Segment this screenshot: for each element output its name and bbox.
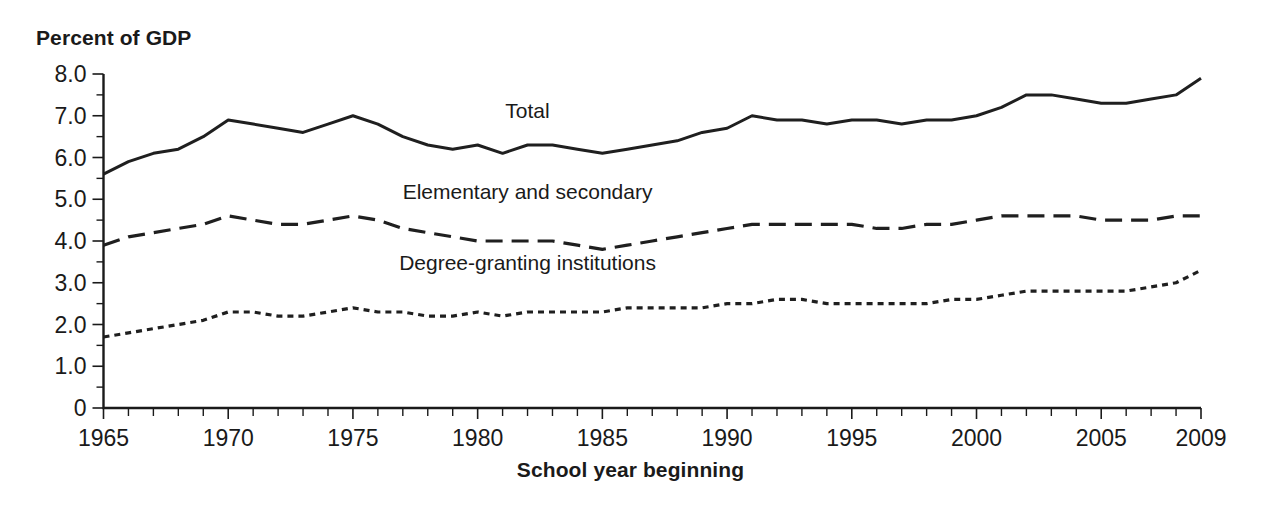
x-tick-label: 1980 — [452, 425, 503, 450]
x-tick-label: 2009 — [1175, 425, 1226, 450]
series-label-2: Degree-granting institutions — [399, 251, 656, 274]
y-tick-label: 2.0 — [55, 312, 87, 338]
y-axis-title: Percent of GDP — [36, 26, 191, 50]
x-tick-label: 1995 — [826, 425, 877, 450]
series-label-0: Total — [505, 99, 549, 122]
y-tick-label: 4.0 — [55, 228, 87, 254]
x-tick-label: 1975 — [327, 425, 378, 450]
y-tick-label: 8.0 — [55, 61, 87, 87]
y-tick-label: 6.0 — [55, 145, 87, 171]
data-series-lines — [104, 78, 1202, 337]
y-tick-label: 1.0 — [55, 353, 87, 379]
x-tick-label: 1965 — [78, 425, 129, 450]
y-tick-label: 5.0 — [55, 186, 87, 212]
y-tick-label: 0 — [74, 395, 87, 421]
y-tick-label: 3.0 — [55, 270, 87, 296]
series-line-0 — [104, 78, 1202, 174]
x-axis-tick-labels: 1965197019751980198519901995200020052009 — [78, 425, 1227, 450]
y-tick-label: 7.0 — [55, 103, 87, 129]
series-line-2 — [104, 270, 1202, 337]
x-tick-label: 2005 — [1076, 425, 1127, 450]
chart-figure: Percent of GDP 01.02.03.04.05.06.07.08.0… — [0, 0, 1261, 511]
x-axis-title: School year beginning — [0, 458, 1261, 482]
y-axis-tick-labels: 01.02.03.04.05.06.07.08.0 — [55, 61, 87, 421]
x-tick-label: 1985 — [577, 425, 628, 450]
series-line-1 — [104, 216, 1202, 249]
x-tick-label: 1970 — [203, 425, 254, 450]
x-axis-ticks — [104, 408, 1202, 419]
chart-plot-area: 01.02.03.04.05.06.07.08.0 19651970197519… — [0, 0, 1261, 450]
x-tick-label: 2000 — [951, 425, 1002, 450]
x-tick-label: 1990 — [701, 425, 752, 450]
y-axis-ticks — [93, 74, 104, 408]
series-label-1: Elementary and secondary — [403, 180, 653, 203]
